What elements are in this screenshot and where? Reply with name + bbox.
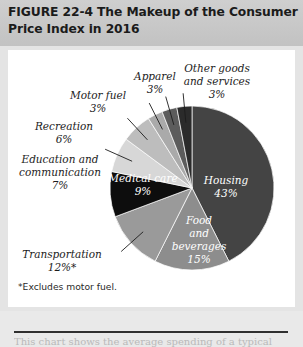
pie-value-housing: 43% (213, 187, 237, 199)
pie-value-transportation: 12%* (48, 261, 77, 273)
pie-value-apparel: 3% (147, 83, 164, 95)
body-teaser-text: This chart shows the average spending of… (14, 336, 294, 347)
pie-chart: Housing43%Foodandbeverages15%Transportat… (0, 0, 303, 347)
pie-name-other-goods-and-services: and services (184, 75, 251, 87)
pie-name-other-goods-and-services: Other goods (184, 62, 250, 74)
pie-value-medical-care: 9% (135, 185, 152, 197)
pie-name-medical-care: Medical care (107, 172, 177, 184)
pie-label-recreation: Recreation6% (34, 120, 93, 145)
pie-value-recreation: 6% (56, 133, 73, 145)
pie-label-motor-fuel: Motor fuel3% (69, 89, 126, 114)
pie-name-apparel: Apparel (133, 70, 176, 82)
pie-value-motor-fuel: 3% (90, 102, 107, 114)
figure-container: FIGURE 22-4 The Makeup of the Consumer P… (0, 0, 303, 347)
pie-name-food-and-beverages: and (189, 227, 209, 239)
pie-name-food-and-beverages: Food (185, 214, 212, 226)
pie-label-apparel: Apparel3% (133, 70, 176, 95)
pie-label-other-goods-and-services: Other goodsand services3% (184, 62, 251, 100)
pie-name-recreation: Recreation (34, 120, 93, 132)
pie-name-education-and-communication: communication (19, 166, 101, 178)
pie-name-motor-fuel: Motor fuel (69, 89, 126, 101)
pie-value-food-and-beverages: 15% (187, 253, 210, 265)
pie-label-transportation: Transportation12%* (22, 248, 102, 273)
pie-name-education-and-communication: Education and (20, 153, 98, 165)
figure-footnote: *Excludes motor fuel. (18, 281, 117, 292)
pie-name-housing: Housing (203, 174, 249, 186)
pie-name-food-and-beverages: beverages (172, 240, 227, 252)
pie-name-transportation: Transportation (22, 248, 102, 260)
pie-label-education-and-communication: Education andcommunication7% (19, 153, 101, 191)
pie-value-education-and-communication: 7% (52, 179, 69, 191)
bottom-divider (14, 331, 288, 333)
pie-value-other-goods-and-services: 3% (209, 88, 226, 100)
